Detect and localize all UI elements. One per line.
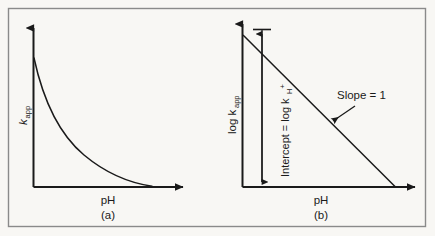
figure-border [9,9,426,227]
panel-b-y-axis-label-sub: app [232,95,241,108]
panel-a-caption: (a) [101,209,115,221]
panel-b-intercept-label-sup: + [278,84,287,89]
panel-a-y-axis-label-sub: app [23,106,32,119]
panel-a-x-axis-label: pH [101,194,116,206]
panel-a-y-axis-label: k app [17,106,32,125]
panel-b: log k app Intercept = log k H + Slope = … [226,24,415,221]
panel-b-y-axis-label: log k app [226,95,241,134]
figure-svg: k app pH (a) log k app [0,0,435,236]
panel-b-slope-line [243,35,395,187]
panel-a: k app pH (a) [17,28,183,221]
panel-a-decay-curve [34,58,152,186]
panel-b-slope-pointer-arrow [333,106,355,121]
panel-b-x-axis-label: pH [314,194,329,206]
figure-container: k app pH (a) log k app [0,0,435,236]
panel-b-intercept-label: Intercept = log k H + [278,84,294,178]
panel-b-y-axis-label-main: log k [226,109,238,134]
panel-b-caption: (b) [314,209,328,221]
panel-b-intercept-label-main: Intercept = log k [279,98,291,177]
panel-b-slope-label: Slope = 1 [337,89,386,101]
